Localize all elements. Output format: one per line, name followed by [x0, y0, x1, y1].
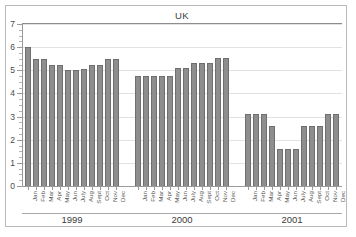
y-minor-tick [19, 59, 22, 60]
x-tick [162, 187, 163, 190]
x-month-label: Jun [181, 191, 188, 201]
x-tick [304, 187, 305, 190]
x-tick [336, 187, 337, 190]
y-minor-tick [19, 174, 22, 175]
x-month-label: Sept [95, 191, 102, 204]
bar [73, 70, 79, 186]
x-tick [328, 187, 329, 190]
bar [57, 65, 63, 187]
x-tick [138, 187, 139, 190]
x-month-label: Feb [149, 191, 156, 202]
y-minor-tick [19, 134, 22, 135]
bar [97, 65, 103, 187]
x-month-label: May [283, 191, 290, 203]
y-tick-label: 4 [1, 88, 15, 98]
x-month-label: Oct [103, 191, 110, 201]
x-tick [320, 187, 321, 190]
y-minor-tick [19, 53, 22, 54]
bar [167, 76, 173, 186]
x-tick [44, 187, 45, 190]
title-strip: UK [22, 9, 342, 24]
bar [49, 65, 55, 187]
x-tick [100, 187, 101, 190]
y-tick-label: 6 [1, 42, 15, 52]
y-minor-tick [19, 122, 22, 123]
y-minor-tick [19, 180, 22, 181]
y-tick [17, 24, 22, 25]
x-tick [154, 187, 155, 190]
x-tick [52, 187, 53, 190]
x-tick [60, 187, 61, 190]
bar [253, 114, 259, 186]
y-minor-tick [19, 128, 22, 129]
x-month-label: Apr [55, 191, 62, 201]
y-minor-tick [19, 99, 22, 100]
y-tick [17, 117, 22, 118]
x-tick [226, 187, 227, 190]
x-month-label: Nov [111, 191, 118, 202]
x-tick [92, 187, 93, 190]
y-tick-label: 7 [1, 19, 15, 29]
x-month-label: Sept [315, 191, 322, 204]
x-month-label: Jun [71, 191, 78, 201]
bar [309, 126, 315, 186]
bar [113, 59, 119, 186]
x-tick [248, 187, 249, 190]
bar [301, 126, 307, 186]
gridline [22, 47, 342, 48]
x-month-label: Oct [213, 191, 220, 201]
x-tick [264, 187, 265, 190]
y-minor-tick [19, 111, 22, 112]
x-tick [272, 187, 273, 190]
bar [143, 76, 149, 186]
chart-figure: UK 01234567 JanFebMarAprMayJunJulyAugSep… [0, 0, 356, 237]
y-minor-tick [19, 146, 22, 147]
gridline [22, 24, 342, 25]
x-tick [288, 187, 289, 190]
y-tick-label: 5 [1, 65, 15, 75]
x-month-label: May [173, 191, 180, 203]
x-month-label: Mar [47, 191, 54, 202]
y-minor-tick [19, 30, 22, 31]
x-month-label: Apr [275, 191, 282, 201]
x-month-label: Aug [87, 191, 94, 202]
y-minor-tick [19, 82, 22, 83]
x-month-label: Jan [141, 191, 148, 201]
x-tick [210, 187, 211, 190]
y-tick [17, 140, 22, 141]
bar [65, 70, 71, 186]
y-tick [17, 163, 22, 164]
x-month-label: Dec [339, 191, 346, 202]
bar [277, 149, 283, 186]
bar [151, 76, 157, 186]
bar [215, 58, 221, 186]
x-month-label: Mar [157, 191, 164, 202]
x-month-label: Dec [229, 191, 236, 202]
bar [269, 126, 275, 186]
bar [175, 68, 181, 186]
x-month-label: Jan [31, 191, 38, 201]
x-tick [108, 187, 109, 190]
x-tick [296, 187, 297, 190]
x-month-label: Aug [307, 191, 314, 202]
x-tick [312, 187, 313, 190]
bar [333, 114, 339, 186]
chart-title: UK [22, 9, 342, 23]
x-tick [146, 187, 147, 190]
bar [261, 114, 267, 186]
x-month-label: Feb [39, 191, 46, 202]
x-tick [218, 187, 219, 190]
y-minor-tick [19, 157, 22, 158]
year-label: 2001 [244, 214, 340, 225]
bar [105, 59, 111, 186]
y-minor-tick [19, 88, 22, 89]
y-tick [17, 70, 22, 71]
x-axis-line [22, 186, 342, 187]
bar [207, 63, 213, 186]
y-minor-tick [19, 41, 22, 42]
x-month-label: July [79, 191, 86, 202]
y-tick-label: 1 [1, 158, 15, 168]
y-axis-line [22, 24, 23, 186]
y-tick-label: 3 [1, 112, 15, 122]
y-tick-label: 0 [1, 181, 15, 191]
